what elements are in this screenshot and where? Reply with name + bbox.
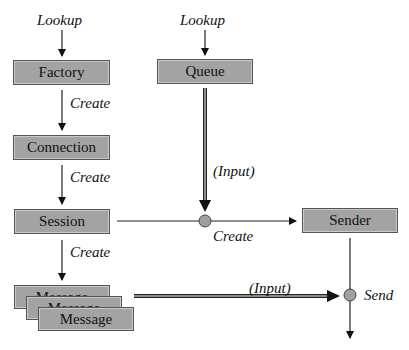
factory-node: Factory bbox=[13, 60, 110, 85]
message-input-label: (Input) bbox=[249, 281, 291, 296]
sender-node: Sender bbox=[302, 208, 398, 233]
create-sender-label: Create bbox=[213, 229, 253, 244]
create-junction bbox=[199, 215, 211, 227]
queue-node: Queue bbox=[157, 59, 253, 84]
send-junction bbox=[344, 289, 356, 301]
create-message-label: Create bbox=[70, 245, 110, 260]
create-connection-label: Create bbox=[70, 96, 110, 111]
queue-input-double-arrow bbox=[199, 88, 211, 212]
session-node: Session bbox=[14, 209, 110, 234]
lookup-queue-label: Lookup bbox=[180, 13, 225, 28]
queue-input-label: (Input) bbox=[213, 164, 255, 179]
lookup-factory-label: Lookup bbox=[37, 13, 82, 28]
create-session-label: Create bbox=[70, 170, 110, 185]
send-label: Send bbox=[364, 288, 393, 303]
message-input-double-arrow bbox=[134, 290, 340, 302]
connection-node: Connection bbox=[13, 135, 110, 160]
message-node-front: Message bbox=[38, 307, 134, 331]
